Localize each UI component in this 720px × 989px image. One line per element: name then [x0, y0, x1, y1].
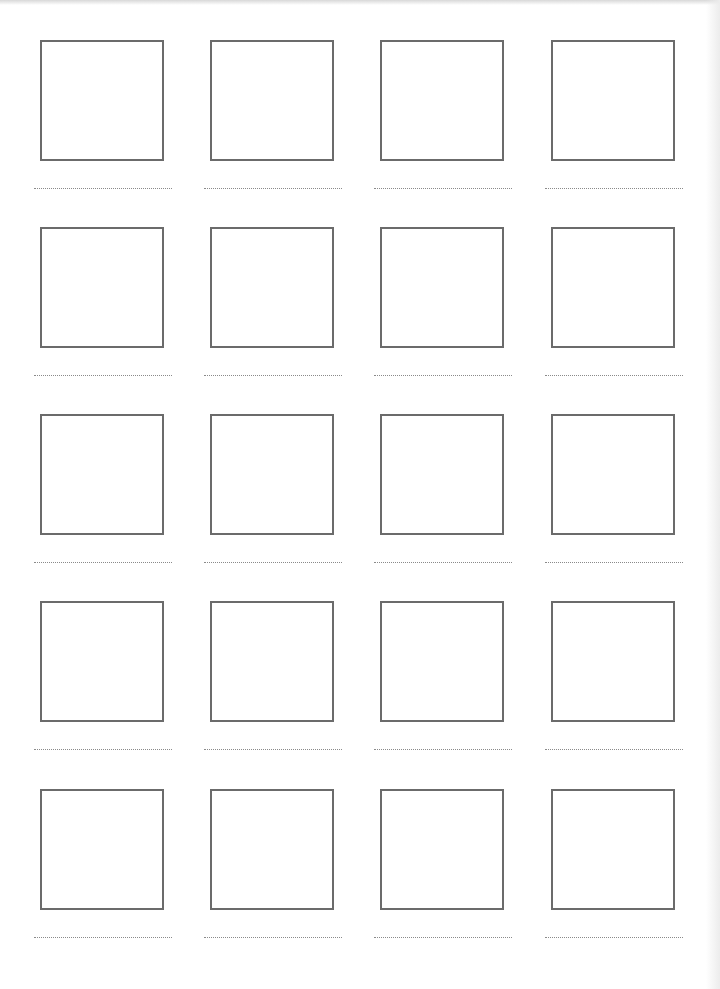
scan-edge-right [706, 0, 720, 989]
answer-line[interactable] [204, 188, 342, 189]
drawing-box[interactable] [380, 601, 504, 722]
answer-line[interactable] [34, 188, 172, 189]
scan-edge-top [0, 0, 720, 5]
answer-line[interactable] [545, 188, 683, 189]
drawing-box[interactable] [40, 601, 164, 722]
drawing-box[interactable] [40, 789, 164, 910]
answer-line[interactable] [34, 375, 172, 376]
answer-line[interactable] [204, 749, 342, 750]
answer-line[interactable] [545, 749, 683, 750]
answer-line[interactable] [204, 375, 342, 376]
drawing-box[interactable] [380, 789, 504, 910]
answer-line[interactable] [545, 375, 683, 376]
worksheet-cell [380, 227, 518, 387]
worksheet-cell [551, 227, 689, 387]
worksheet-cell [380, 414, 518, 574]
worksheet-cell [210, 414, 348, 574]
answer-line[interactable] [374, 937, 512, 938]
drawing-box[interactable] [551, 40, 675, 161]
worksheet-cell [551, 414, 689, 574]
worksheet-cell [40, 601, 178, 761]
answer-line[interactable] [34, 937, 172, 938]
worksheet-cell [380, 601, 518, 761]
drawing-box[interactable] [40, 40, 164, 161]
drawing-box[interactable] [210, 601, 334, 722]
drawing-box[interactable] [210, 40, 334, 161]
answer-line[interactable] [545, 562, 683, 563]
drawing-box[interactable] [551, 227, 675, 348]
drawing-box[interactable] [551, 601, 675, 722]
drawing-box[interactable] [380, 227, 504, 348]
drawing-box[interactable] [380, 40, 504, 161]
answer-line[interactable] [204, 937, 342, 938]
answer-line[interactable] [374, 749, 512, 750]
worksheet-cell [551, 601, 689, 761]
worksheet-cell [40, 227, 178, 387]
drawing-box[interactable] [551, 414, 675, 535]
worksheet-cell [210, 601, 348, 761]
answer-line[interactable] [374, 375, 512, 376]
worksheet-cell [40, 40, 178, 200]
drawing-box[interactable] [40, 227, 164, 348]
worksheet-cell [551, 789, 689, 949]
drawing-box[interactable] [210, 789, 334, 910]
drawing-box[interactable] [40, 414, 164, 535]
worksheet-cell [380, 40, 518, 200]
answer-line[interactable] [374, 562, 512, 563]
drawing-box[interactable] [380, 414, 504, 535]
worksheet-cell [40, 414, 178, 574]
worksheet-cell [210, 40, 348, 200]
worksheet-cell [40, 789, 178, 949]
worksheet-cell [380, 789, 518, 949]
worksheet-cell [210, 227, 348, 387]
drawing-box[interactable] [210, 414, 334, 535]
drawing-box[interactable] [551, 789, 675, 910]
answer-line[interactable] [204, 562, 342, 563]
drawing-box[interactable] [210, 227, 334, 348]
answer-line[interactable] [545, 937, 683, 938]
answer-line[interactable] [34, 562, 172, 563]
worksheet-cell [551, 40, 689, 200]
answer-line[interactable] [374, 188, 512, 189]
worksheet-cell [210, 789, 348, 949]
answer-line[interactable] [34, 749, 172, 750]
